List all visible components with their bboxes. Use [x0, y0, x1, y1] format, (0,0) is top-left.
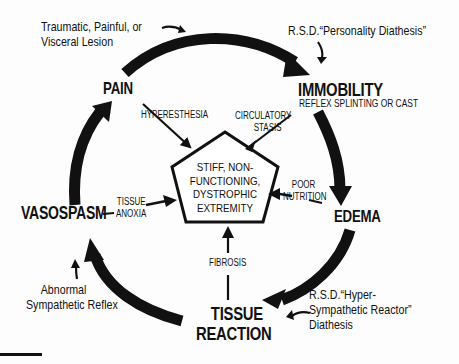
cycle-arrow-vasospasm-to-pain	[74, 101, 112, 205]
label-poor-nutrition: POOR NUTRITION	[283, 179, 327, 202]
label-fibrosis: FIBROSIS	[209, 258, 246, 268]
rsd-cycle-diagram: Traumatic, Painful, or Visceral Lesion R…	[0, 0, 459, 364]
label-hyperesthesia: HYPERESTHESIA	[141, 110, 208, 120]
hyper-sympathetic-annotation: R.S.D.“Hyper- Sympathetic Reactor” Diath…	[309, 288, 412, 333]
cycle-arrow-pain-to-immobility	[125, 39, 310, 77]
abnormal-reflex-annotation: Abnormal Sympathetic Reflex	[26, 283, 118, 313]
label-tissue-anoxia: TISSUE ANOXIA	[116, 196, 146, 219]
node-edema: EDEMA	[334, 208, 381, 225]
node-vasospasm: VASOSPASM	[21, 204, 107, 222]
lesion-annotation: Traumatic, Painful, or Visceral Lesion	[41, 20, 142, 50]
node-tissue-reaction: TISSUE REACTION	[196, 304, 272, 344]
node-pain: PAIN	[103, 80, 133, 97]
bottom-rule	[0, 353, 42, 356]
center-label: STIFF, NON- FUNCTIONING, DYSTROPHIC EXTR…	[184, 161, 266, 215]
personality-diathesis-annotation: R.S.D.“Personality Diathesis”	[288, 24, 426, 39]
immobility-subtitle: REFLEX SPLINTING OR CAST	[299, 98, 418, 109]
label-circulatory-stasis: CIRCULATORY STASIS	[235, 110, 291, 133]
